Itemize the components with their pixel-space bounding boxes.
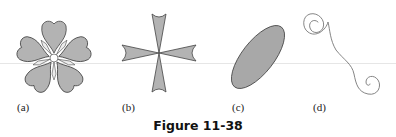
panel-d-label: (d) xyxy=(313,101,326,113)
ellipse-shape xyxy=(200,0,300,110)
panel-c: (c) xyxy=(200,0,300,110)
panel-b: (b) xyxy=(100,0,200,110)
spiral-curve-shape xyxy=(290,0,396,110)
cross-shape xyxy=(100,0,200,110)
flower-shape xyxy=(0,0,100,110)
figure-caption: Figure 11-38 xyxy=(0,118,396,133)
panel-d: (d) xyxy=(290,0,396,110)
panel-c-label: (c) xyxy=(232,101,244,113)
panel-b-label: (b) xyxy=(122,101,135,113)
figure: (a) (b) (c) (d) Figure xyxy=(0,0,396,137)
panel-a: (a) xyxy=(0,0,100,110)
panel-a-label: (a) xyxy=(17,101,29,113)
